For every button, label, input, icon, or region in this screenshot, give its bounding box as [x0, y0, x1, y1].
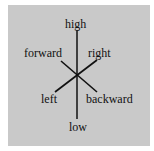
label-low: low: [69, 121, 87, 133]
label-right: right: [88, 47, 111, 59]
label-left: left: [41, 93, 57, 105]
label-forward: forward: [24, 47, 62, 59]
label-backward: backward: [86, 93, 133, 105]
forward-backward-axis-line: [61, 61, 97, 92]
label-high: high: [65, 18, 86, 30]
